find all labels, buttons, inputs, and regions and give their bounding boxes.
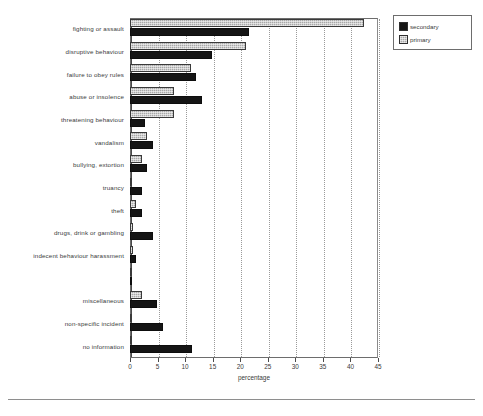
x-tick [295, 358, 296, 362]
bar-secondary [130, 277, 132, 285]
bar-primary [130, 64, 191, 72]
x-tick-label: 30 [292, 363, 299, 370]
bar-primary [130, 223, 133, 231]
category-label: fighting or assault [73, 25, 124, 33]
bar-secondary [130, 300, 157, 308]
bar-rows [130, 18, 378, 358]
bar-primary [130, 132, 147, 140]
bar-primary [130, 19, 364, 27]
footer-divider [8, 399, 475, 400]
category-axis-labels: fighting or assaultdisruptive behaviourf… [0, 18, 128, 358]
category-label: miscellaneous [83, 297, 124, 305]
bar-secondary [130, 73, 196, 81]
bar-primary [130, 336, 132, 344]
bar-secondary [130, 209, 142, 217]
legend-label-primary: primary [410, 36, 431, 43]
bar-primary [130, 314, 132, 322]
x-tick [268, 358, 269, 362]
bar-secondary [130, 255, 136, 263]
x-tick-label: 5 [156, 363, 160, 370]
x-tick-label: 15 [209, 363, 216, 370]
bar-primary [130, 200, 136, 208]
x-tick [378, 358, 379, 362]
bar-secondary [130, 28, 249, 36]
legend-item-primary: primary [399, 33, 471, 46]
bar-row [130, 86, 378, 109]
bar-secondary [130, 345, 192, 353]
bar-primary [130, 268, 132, 276]
x-tick-label: 0 [128, 363, 132, 370]
x-axis-title: percentage [130, 374, 378, 381]
bar-secondary [130, 164, 147, 172]
x-tick [350, 358, 351, 362]
bar-primary [130, 246, 133, 254]
legend-item-secondary: secondary [399, 20, 471, 33]
bar-primary [130, 42, 246, 50]
bar-primary [130, 110, 174, 118]
bar-secondary [130, 119, 145, 127]
category-label: theft [111, 207, 124, 215]
category-label: vandalism [95, 139, 124, 147]
x-tick [130, 358, 131, 362]
category-label: failure to obey rules [67, 71, 124, 79]
x-tick [185, 358, 186, 362]
category-label: indecent behaviour harassment [33, 252, 124, 260]
bar-secondary [130, 51, 212, 59]
x-tick [323, 358, 324, 362]
x-tick-label: 10 [182, 363, 189, 370]
bar-row [130, 154, 378, 177]
category-label: bullying, extortion [73, 161, 124, 169]
bar-row [130, 267, 378, 290]
bar-primary [130, 291, 142, 299]
bar-secondary [130, 323, 163, 331]
x-tick-label: 35 [319, 363, 326, 370]
bar-row [130, 63, 378, 86]
category-label: threatening behaviour [61, 116, 124, 124]
bar-secondary [130, 141, 153, 149]
bar-secondary [130, 96, 202, 104]
category-label: non-specific incident [65, 320, 124, 328]
category-label: abuse or insolence [69, 93, 124, 101]
secondary-swatch-icon [399, 22, 408, 31]
bar-primary [130, 155, 142, 163]
category-label: drugs, drink or gambling [54, 229, 124, 237]
bar-row [130, 177, 378, 200]
bar-row [130, 290, 378, 313]
bar-secondary [130, 232, 153, 240]
x-tick [240, 358, 241, 362]
gridline-45 [379, 19, 380, 357]
bar-row [130, 18, 378, 41]
bar-primary [130, 178, 132, 186]
category-label: truancy [103, 184, 124, 192]
legend-label-secondary: secondary [410, 23, 439, 30]
chart-figure: fighting or assaultdisruptive behaviourf… [0, 0, 483, 416]
bar-row [130, 199, 378, 222]
x-tick-label: 40 [347, 363, 354, 370]
bar-secondary [130, 187, 142, 195]
bar-row [130, 222, 378, 245]
bar-row [130, 335, 378, 358]
x-tick-label: 20 [237, 363, 244, 370]
primary-swatch-icon [399, 35, 408, 44]
bar-primary [130, 87, 174, 95]
bar-row [130, 313, 378, 336]
x-tick-label: 25 [264, 363, 271, 370]
bar-row [130, 41, 378, 64]
x-tick-label: 45 [374, 363, 381, 370]
chart-legend: secondary primary [393, 15, 472, 50]
x-tick [213, 358, 214, 362]
x-tick [158, 358, 159, 362]
bar-row [130, 109, 378, 132]
category-label: disruptive behaviour [66, 48, 124, 56]
category-label: no information [83, 343, 124, 351]
bar-row [130, 131, 378, 154]
bar-row [130, 245, 378, 268]
